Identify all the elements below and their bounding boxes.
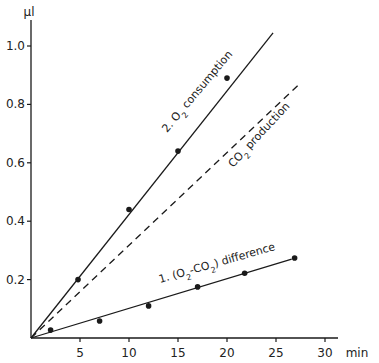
series-label: CO2 production [226, 100, 295, 173]
data-point [48, 327, 54, 333]
data-point [175, 148, 181, 154]
x-tick-label: 30 [317, 346, 332, 360]
data-point [224, 75, 230, 81]
y-tick-label: 0.2 [6, 273, 25, 287]
data-point [97, 318, 103, 324]
y-tick-label: 0.6 [6, 156, 25, 170]
data-point [195, 284, 201, 290]
fit-line [31, 33, 273, 338]
y-tick-label: 0.4 [6, 214, 25, 228]
series-group: 2. O2 consumptionCO2 production1. (O2-CO… [31, 33, 300, 338]
series-0: 2. O2 consumption [31, 33, 273, 338]
data-point [75, 277, 81, 283]
x-tick-label: 5 [76, 346, 84, 360]
axes: 0.20.40.60.81.051015202530 [6, 20, 338, 360]
fit-line [31, 259, 292, 338]
y-axis-label: µl [24, 5, 35, 19]
x-tick-label: 20 [219, 346, 234, 360]
series-2: 1. (O2-CO2) difference [31, 240, 297, 338]
x-tick-label: 15 [170, 346, 185, 360]
chart: 0.20.40.60.81.051015202530 2. O2 consump… [0, 0, 379, 363]
y-tick-label: 0.8 [6, 97, 25, 111]
x-axis-label: min [346, 346, 369, 360]
y-tick-label: 1.0 [6, 39, 25, 53]
x-tick-label: 10 [121, 346, 136, 360]
data-point [146, 303, 152, 309]
data-point [292, 255, 298, 261]
x-tick-label: 25 [268, 346, 283, 360]
data-point [242, 270, 248, 276]
data-point [126, 207, 132, 213]
